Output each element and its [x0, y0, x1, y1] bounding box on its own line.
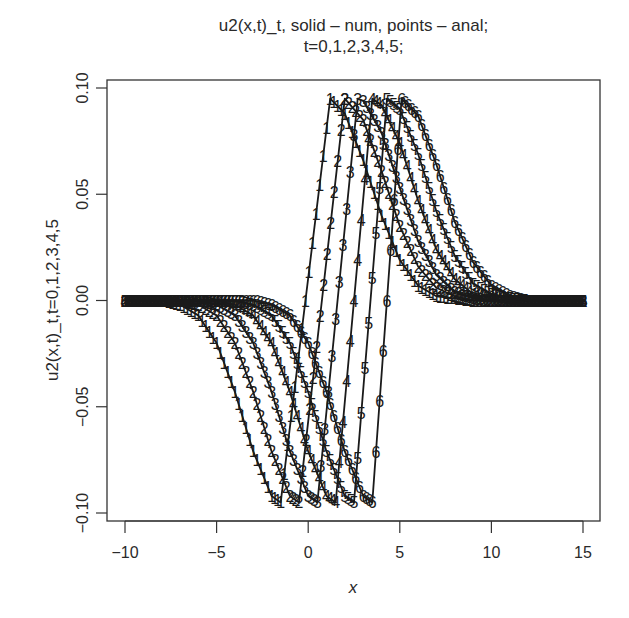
y-tick-label: −0.05: [74, 386, 91, 427]
analytic-point-marker: 2: [326, 215, 335, 232]
analytic-point-marker: 4: [357, 212, 366, 229]
analytic-point-marker: 5: [364, 315, 373, 332]
analytic-point-marker: 6: [368, 494, 377, 511]
analytic-point-marker: 6: [375, 393, 384, 410]
analytic-point-marker: 1: [312, 206, 321, 223]
analytic-point-marker: 1: [301, 293, 310, 310]
analytic-point-marker: 1: [276, 494, 285, 511]
analytic-point-marker: 6: [383, 293, 392, 310]
analytic-point-marker: 2: [323, 246, 332, 263]
analytic-point-marker: 4: [353, 252, 362, 269]
analytic-point-marker: 5: [350, 494, 359, 511]
analytic-point-marker: 5: [368, 270, 377, 287]
analytic-point-marker: 6: [379, 343, 388, 360]
x-tick-label: −10: [111, 544, 138, 561]
y-tick-label: 0.10: [74, 72, 91, 103]
analytic-point-marker: 2: [337, 122, 346, 139]
x-tick-label: 10: [483, 544, 501, 561]
analytic-point-marker: 4: [350, 293, 359, 310]
analytic-point-marker: 4: [346, 333, 355, 350]
analytic-point-marker: 5: [361, 360, 370, 377]
y-tick-label: 0.05: [74, 179, 91, 210]
analytic-point-marker: 1: [319, 148, 328, 165]
analytic-point-marker: 3: [313, 494, 322, 511]
analytic-point-marker: 3: [350, 127, 359, 144]
x-tick-label: 15: [574, 544, 592, 561]
series-group: 1111111111111111111111111111111111111111…: [121, 91, 588, 512]
analytic-point-marker: 6: [390, 192, 399, 209]
analytic-point-marker: 3: [342, 201, 351, 218]
analytic-point-marker: 4: [364, 131, 373, 148]
analytic-point-marker: 3: [335, 274, 344, 291]
x-tick-label: 0: [304, 544, 313, 561]
y-tick-label: 0.00: [74, 285, 91, 316]
y-axis: −0.10−0.050.000.050.10: [74, 72, 107, 533]
analytic-point-marker: 1: [305, 264, 314, 281]
analytic-point-marker: 3: [346, 164, 355, 181]
analytic-point-marker: 4: [361, 171, 370, 188]
analytic-point-marker: 2: [330, 184, 339, 201]
analytic-point-marker: 6: [394, 141, 403, 158]
analytic-point-marker: 2: [319, 277, 328, 294]
analytic-point-marker: 2: [316, 308, 325, 325]
analytic-point-marker: 4: [342, 373, 351, 390]
analytic-point-marker: 6: [386, 242, 395, 259]
analytic-point-marker: 6: [579, 293, 588, 310]
analytic-point-marker: 5: [375, 180, 384, 197]
analytic-point-marker: 2: [295, 494, 304, 511]
x-tick-label: 5: [395, 544, 404, 561]
analytic-point-marker: 3: [339, 237, 348, 254]
analytic-point-marker: 5: [379, 136, 388, 153]
x-tick-label: −5: [207, 544, 225, 561]
x-axis: −10−5051015: [111, 521, 592, 561]
analytic-point-marker: 1: [308, 235, 317, 252]
y-tick-label: −0.10: [74, 493, 91, 534]
analytic-point-marker: 1: [315, 177, 324, 194]
analytic-point-marker: 3: [328, 348, 337, 365]
plot-area: −10−5051015 −0.10−0.050.000.050.10 11111…: [0, 0, 629, 618]
analytic-point-marker: 2: [333, 153, 342, 170]
analytic-point-marker: 6: [372, 444, 381, 461]
analytic-point-marker: 4: [331, 494, 340, 511]
analytic-point-marker: 5: [372, 225, 381, 242]
analytic-point-marker: 1: [322, 120, 331, 137]
analytic-point-marker: 3: [331, 311, 340, 328]
analytic-point-marker: 5: [357, 405, 366, 422]
